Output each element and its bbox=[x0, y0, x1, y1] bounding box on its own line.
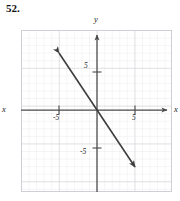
coordinate-plane bbox=[21, 30, 172, 192]
y-tick-label-pos5: 5 bbox=[84, 61, 88, 70]
x-axis-label-right: x bbox=[174, 104, 178, 114]
x-tick-label-pos5: 5 bbox=[132, 113, 136, 122]
y-tick-label-neg5: -5 bbox=[80, 147, 86, 156]
problem-number: 52. bbox=[6, 2, 20, 14]
x-tick-label-neg5: -5 bbox=[53, 113, 59, 122]
y-axis-label: y bbox=[94, 14, 98, 24]
axes-and-line bbox=[21, 30, 172, 192]
x-axis-label-left: x bbox=[2, 104, 6, 114]
